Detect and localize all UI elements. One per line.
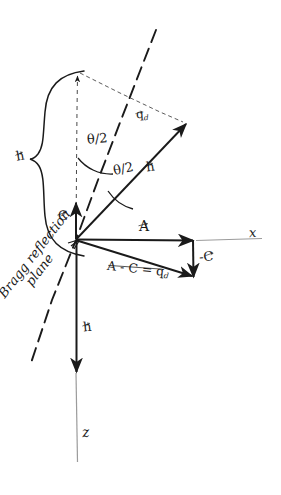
angle-label-lower: θ/2 bbox=[112, 160, 135, 177]
vector-h-diagonal-label: h bbox=[145, 159, 155, 173]
angle-arc-upper bbox=[78, 158, 113, 174]
vector-q-top-subscript: d bbox=[144, 113, 149, 122]
z-axis-faint bbox=[76, 373, 78, 462]
vector-a-label: A bbox=[139, 219, 149, 233]
vector-h-vertical-text: h bbox=[82, 319, 92, 335]
vector-minus-c-label: -C bbox=[198, 249, 213, 263]
vector-a-text: A bbox=[139, 218, 149, 234]
angle-label-upper: θ/2 bbox=[87, 131, 108, 145]
vector-q-top-label: q d bbox=[136, 108, 149, 122]
figure-canvas: x z θ/2 θ/2 A C bbox=[0, 0, 281, 495]
z-axis-label: z bbox=[81, 425, 90, 440]
equation-subscript: d bbox=[163, 271, 169, 280]
vector-q-top-text: q bbox=[136, 107, 144, 121]
parallelogram-top-dashed bbox=[80, 73, 183, 122]
vector-minus-c-arrow bbox=[193, 240, 194, 277]
vector-minus-c-text: -C bbox=[198, 248, 214, 264]
vector-a-arrow bbox=[77, 240, 193, 241]
vector-h-vertical-label: h bbox=[82, 320, 92, 334]
bragg-plane-line bbox=[30, 30, 156, 366]
x-axis-label: x bbox=[249, 226, 257, 239]
